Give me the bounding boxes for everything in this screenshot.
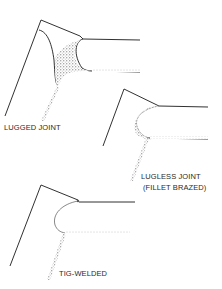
lugless-joint-label: LUGLESS JOINT bbox=[141, 173, 201, 181]
lugged-joint-label: LUGGED JOINT bbox=[4, 124, 61, 132]
lugless-joint-drawing bbox=[103, 89, 208, 181]
lugless-joint-sublabel: (FILLET BRAZED) bbox=[143, 184, 206, 192]
tig-joint-drawing bbox=[10, 185, 135, 280]
tig-welded-label: TIG-WELDED bbox=[59, 270, 107, 278]
lugged-joint-drawing bbox=[5, 20, 140, 121]
joint-diagram bbox=[0, 0, 222, 289]
